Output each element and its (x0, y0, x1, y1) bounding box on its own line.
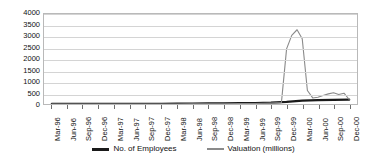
gridline (44, 72, 357, 73)
gridline (44, 83, 357, 84)
series-line-employees (52, 100, 349, 104)
x-axis-tick-label: Dec-96 (101, 117, 109, 141)
legend-swatch-icon (207, 148, 224, 150)
x-axis-tick-label: Sep-99 (274, 117, 282, 141)
line-chart: 05001000150020002500300035004000 Mar-96J… (0, 0, 387, 163)
y-axis: 05001000150020002500300035004000 (0, 9, 40, 107)
x-axis-tick-label: Dec-97 (164, 117, 172, 141)
x-axis-tick-label: Jun-96 (70, 118, 78, 141)
x-axis-tick-label: Jun-97 (133, 118, 141, 141)
gridline (44, 14, 357, 15)
x-axis-tick-label: Sep-96 (85, 117, 93, 141)
y-axis-tick-label: 1500 (2, 67, 40, 75)
gridline (44, 95, 357, 96)
plot-area (43, 13, 358, 105)
x-axis-tick-label: Sep-97 (148, 117, 156, 141)
y-axis-tick-label: 3500 (2, 21, 40, 29)
chart-legend: No. of EmployeesValuation (millions) (0, 142, 387, 156)
y-axis-tick-label: 1000 (2, 78, 40, 86)
y-axis-tick-label: 500 (2, 90, 40, 98)
y-axis-tick-label: 2500 (2, 44, 40, 52)
x-axis-tick-label: Dec-98 (227, 117, 235, 141)
series-canvas (44, 14, 357, 104)
x-axis: Mar-96Jun-96Sep-96Dec-96Mar-97Jun-97Sep-… (43, 109, 358, 143)
gridline (44, 26, 357, 27)
legend-label: No. of Employees (113, 145, 176, 153)
x-axis-tick-label: Mar-98 (180, 117, 188, 141)
y-axis-tick-label: 0 (2, 101, 40, 109)
x-axis-tick-label: Jun-00 (322, 118, 330, 141)
x-axis-tick-label: Jun-98 (196, 118, 204, 141)
x-axis-tick-label: Mar-99 (243, 117, 251, 141)
x-axis-tick-label: Mar-97 (117, 117, 125, 141)
legend-swatch-icon (92, 148, 109, 151)
x-axis-tick-label: Sep-98 (211, 117, 219, 141)
x-axis-tick-label: Sep-00 (337, 117, 345, 141)
legend-item[interactable]: Valuation (millions) (207, 145, 295, 153)
legend-item[interactable]: No. of Employees (92, 145, 176, 153)
x-axis-tick-label: Mar-96 (54, 117, 62, 141)
x-axis-tick-label: Mar-00 (306, 117, 314, 141)
y-axis-tick-label: 4000 (2, 9, 40, 17)
x-axis-tick-label: Jun-99 (259, 118, 267, 141)
gridline (44, 37, 357, 38)
legend-label: Valuation (millions) (228, 145, 295, 153)
gridline (44, 60, 357, 61)
x-axis-tick-label: Dec-99 (290, 117, 298, 141)
y-axis-tick-label: 3000 (2, 32, 40, 40)
y-axis-tick-label: 2000 (2, 55, 40, 63)
gridline (44, 49, 357, 50)
x-axis-tick-label: Dec-00 (353, 117, 361, 141)
series-line-valuation (52, 30, 349, 104)
